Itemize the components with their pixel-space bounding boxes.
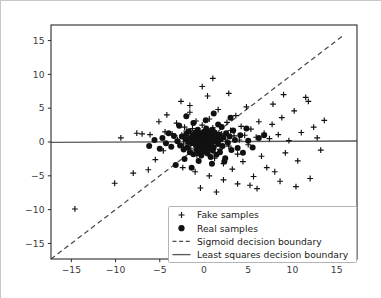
scatter-plot: −15−10−5051015 151050−5−10−15 Fake sampl… bbox=[1, 1, 381, 298]
data-point-real bbox=[228, 147, 234, 153]
legend-marker-real-samples bbox=[178, 225, 184, 231]
y-tick-label: 10 bbox=[33, 69, 45, 80]
data-point-real bbox=[182, 156, 188, 162]
data-point-real bbox=[221, 159, 227, 165]
x-tick-label: 15 bbox=[331, 264, 343, 275]
data-point-real bbox=[227, 134, 233, 140]
x-tick-label: 10 bbox=[287, 264, 299, 275]
data-point-real bbox=[189, 165, 195, 171]
data-point-real bbox=[157, 146, 163, 152]
data-point-real bbox=[190, 120, 196, 126]
data-point-real bbox=[209, 161, 215, 167]
data-point-real bbox=[176, 123, 182, 129]
data-point-real bbox=[217, 149, 223, 155]
data-point-real bbox=[225, 140, 231, 146]
data-point-real bbox=[168, 144, 174, 150]
x-tick-label: 5 bbox=[245, 264, 251, 275]
data-point-real bbox=[196, 158, 202, 164]
data-point-real bbox=[240, 150, 246, 156]
data-point-real bbox=[261, 132, 267, 138]
data-point-real bbox=[151, 137, 157, 143]
data-point-real bbox=[250, 144, 256, 150]
x-tick-label: −5 bbox=[153, 264, 167, 275]
legend-label: Fake samples bbox=[197, 209, 259, 220]
x-tick-label: 0 bbox=[201, 264, 207, 275]
data-point-real bbox=[159, 135, 165, 141]
data-point-real bbox=[183, 113, 189, 119]
data-point-real bbox=[235, 145, 241, 151]
data-point-real bbox=[146, 143, 152, 149]
data-point-real bbox=[228, 115, 234, 121]
data-point-real bbox=[211, 111, 217, 117]
y-tick-label: −5 bbox=[31, 170, 45, 181]
data-point-real bbox=[243, 125, 249, 131]
legend-label: Least squares decision boundary bbox=[197, 249, 349, 260]
data-point-real bbox=[208, 154, 214, 160]
x-tick-label: −15 bbox=[62, 264, 82, 275]
y-tick-label: 0 bbox=[39, 136, 45, 147]
data-point-real bbox=[232, 137, 238, 143]
legend-label: Sigmoid decision boundary bbox=[197, 236, 322, 247]
data-point-real bbox=[237, 132, 243, 138]
data-point-real bbox=[220, 143, 226, 149]
y-tick-label: −10 bbox=[25, 204, 45, 215]
y-tick-label: −15 bbox=[25, 238, 45, 249]
data-point-real bbox=[215, 121, 221, 127]
data-point-real bbox=[166, 130, 172, 136]
data-point-real bbox=[173, 162, 179, 168]
data-point-real bbox=[245, 138, 251, 144]
data-point-real bbox=[230, 128, 236, 134]
y-tick-label: 15 bbox=[33, 35, 45, 46]
legend-label: Real samples bbox=[197, 223, 258, 234]
data-point-real bbox=[163, 140, 169, 146]
data-point-real bbox=[203, 117, 209, 123]
data-point-real bbox=[256, 135, 262, 141]
chart-figure: −15−10−5051015 151050−5−10−15 Fake sampl… bbox=[0, 0, 381, 298]
chart-legend: Fake samplesReal samplesSigmoid decision… bbox=[169, 207, 357, 263]
x-tick-label: −10 bbox=[106, 264, 126, 275]
data-point-real bbox=[171, 133, 177, 139]
y-tick-label: 5 bbox=[39, 102, 45, 113]
